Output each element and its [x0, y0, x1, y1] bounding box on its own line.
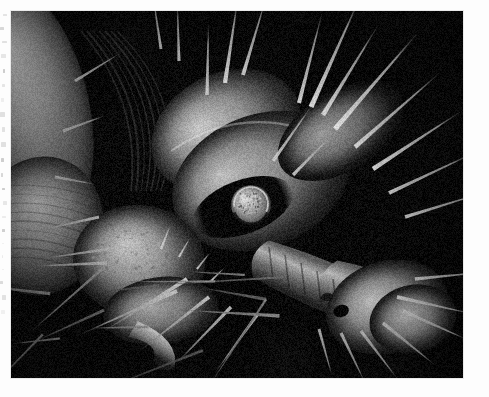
margin-mark	[3, 201, 8, 206]
margin-mark	[1, 98, 4, 101]
left-margin-text-remnants	[0, 14, 10, 314]
margin-mark	[1, 142, 6, 147]
margin-mark	[2, 41, 7, 43]
margin-mark	[2, 188, 5, 190]
margin-mark	[1, 158, 4, 162]
margin-mark	[2, 255, 4, 258]
margin-mark	[1, 310, 4, 313]
micrograph-plate	[11, 11, 463, 378]
margin-mark	[2, 229, 5, 232]
page-background: S. E. M. of Dr. Brian Kumar, University …	[0, 0, 489, 397]
margin-mark	[0, 27, 4, 31]
margin-mark	[2, 84, 5, 88]
margin-mark	[0, 281, 2, 284]
margin-mark	[2, 295, 6, 300]
margin-mark	[0, 112, 5, 116]
margin-mark	[2, 269, 4, 271]
margin-mark	[2, 216, 6, 218]
margin-mark	[2, 243, 5, 245]
margin-mark	[1, 54, 6, 58]
margin-mark	[1, 173, 3, 177]
sem-image	[11, 11, 463, 378]
margin-mark	[2, 127, 6, 131]
margin-mark	[3, 69, 5, 73]
margin-mark	[3, 14, 8, 16]
